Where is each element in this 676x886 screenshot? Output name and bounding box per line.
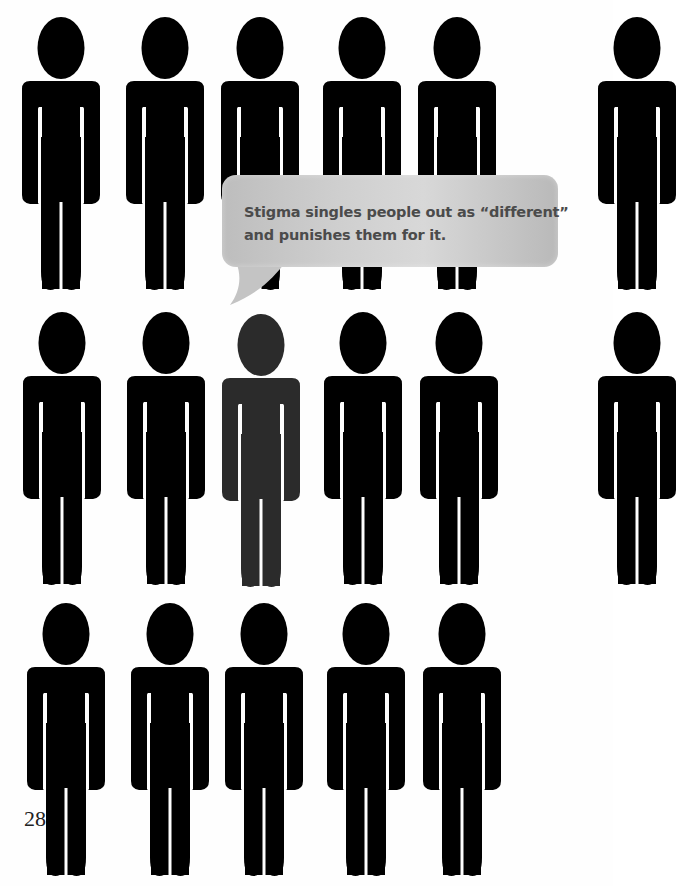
person-pictogram-icon: [23, 312, 101, 585]
person-pictogram-icon: [131, 603, 209, 876]
person-pictogram-icon: [225, 603, 303, 876]
person-pictogram-icon: [327, 603, 405, 876]
callout-line-1: Stigma singles people out as “different”: [244, 201, 554, 224]
speech-bubble: Stigma singles people out as “different”…: [222, 175, 558, 267]
person-pictogram-icon: [127, 312, 205, 585]
person-pictogram-icon: [324, 312, 402, 585]
speech-bubble-tail-icon: [222, 262, 292, 310]
person-pictogram-icon-partial: [598, 17, 676, 290]
person-pictogram-icon: [126, 17, 204, 290]
person-pictogram-icon: [22, 17, 100, 290]
person-pictogram-icon: [423, 603, 501, 876]
person-pictogram-icon: [27, 603, 105, 876]
person-pictogram-icon-highlighted: [222, 314, 300, 587]
callout-line-2: and punishes them for it.: [244, 224, 554, 247]
page-number: 28: [24, 806, 46, 832]
person-pictogram-icon-partial: [598, 312, 676, 585]
person-pictogram-icon: [420, 312, 498, 585]
callout-text: Stigma singles people out as “different”…: [244, 201, 554, 247]
